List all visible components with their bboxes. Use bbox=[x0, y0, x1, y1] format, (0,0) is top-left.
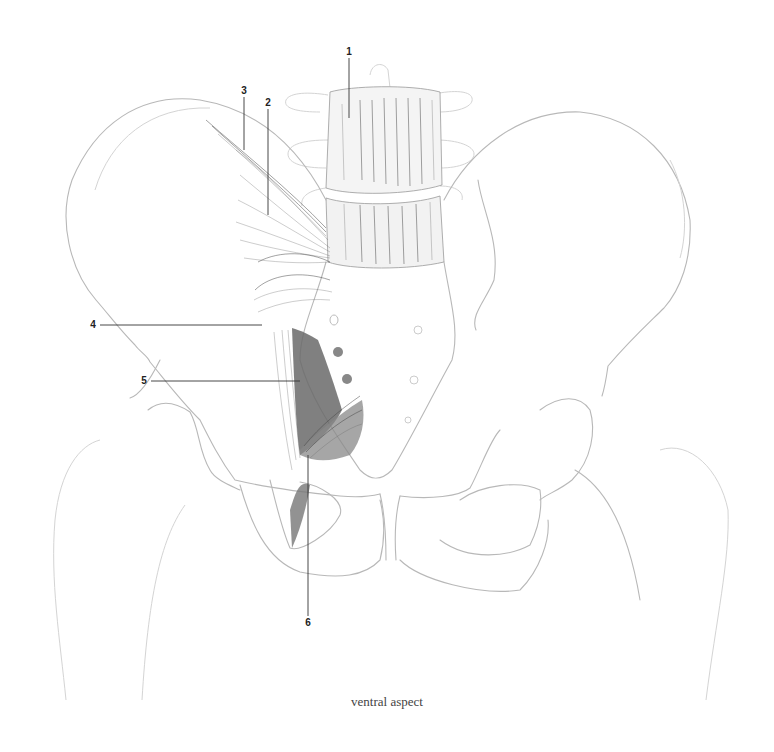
pelvis-drawing bbox=[0, 0, 774, 752]
label-1: 1 bbox=[346, 47, 352, 57]
iliolumbar-ligament bbox=[206, 120, 332, 312]
label-2: 2 bbox=[265, 98, 271, 108]
left-femur bbox=[54, 403, 240, 700]
label-3: 3 bbox=[241, 86, 247, 96]
label-6: 6 bbox=[305, 618, 311, 628]
figure-caption: ventral aspect bbox=[0, 694, 774, 710]
pubic-symphysis bbox=[380, 494, 400, 560]
vertebral-bodies bbox=[326, 87, 444, 268]
right-femur bbox=[540, 399, 728, 700]
label-5: 5 bbox=[141, 376, 147, 386]
label-4: 4 bbox=[90, 320, 96, 330]
anatomical-illustration: 1 2 3 4 5 6 ventral aspect bbox=[0, 0, 774, 752]
right-hip-bone bbox=[400, 112, 690, 591]
